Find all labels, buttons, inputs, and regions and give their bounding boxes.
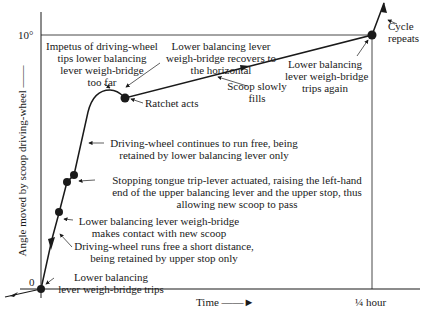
direction-arrow-icon [48, 237, 55, 250]
y-origin-tick: 0 [29, 276, 35, 288]
annotation-contact: Lower balancing lever weigh-bridge makes… [74, 215, 244, 239]
stopping-point-1 [63, 178, 71, 186]
annotation-stopping: Stopping tongue trip-lever actuated, rai… [97, 174, 377, 210]
y-axis-label: Angle moved by scoop driving-wheel —— [16, 61, 28, 261]
annotation-ratchet: Ratchet acts [145, 97, 198, 109]
annotation-scoop-fills: Scoop slowly fills [222, 80, 292, 104]
x-axis-label: Time ——► [196, 296, 254, 308]
stopping-point-2 [70, 171, 78, 179]
ratchet-point [121, 94, 130, 103]
annotation-cycle-repeats: Cycle repeats [388, 20, 419, 44]
annotation-recovers: Lower balancing lever weigh-bridge recov… [156, 40, 286, 76]
incoming-line [5, 289, 41, 297]
origin-point [37, 285, 45, 293]
trip-again-point [368, 31, 377, 40]
annotation-trips: Lower balancing lever weigh-bridge trips [56, 271, 166, 295]
annotation-trips-again: Lower balancing lever weigh-bridge trips… [285, 58, 365, 94]
annotation-short-distance: Driving-wheel runs free a short distance… [69, 240, 259, 264]
annotation-impetus: Impetus of driving-wheel tips lower bala… [42, 40, 162, 88]
y-top-tick: 10° [18, 29, 33, 41]
x-end-tick: ¼ hour [355, 296, 386, 308]
annotation-runs-free: Driving-wheel continues to run free, bei… [104, 137, 304, 161]
contact-point [55, 208, 63, 216]
